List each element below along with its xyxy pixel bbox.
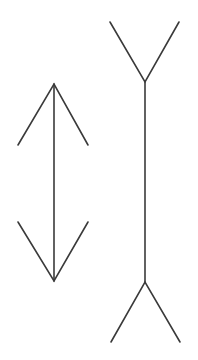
left-figure-arrowheads <box>18 84 88 281</box>
muller-lyer-diagram <box>0 0 198 360</box>
right-bottom-fins <box>111 282 180 342</box>
left-bottom-arrowhead <box>18 222 88 281</box>
right-figure-fins <box>110 22 180 342</box>
left-top-arrowhead <box>18 84 88 145</box>
right-top-fins <box>110 22 179 82</box>
